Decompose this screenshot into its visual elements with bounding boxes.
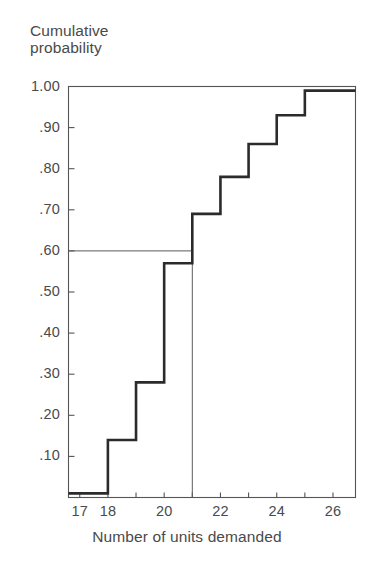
plot-area <box>0 0 374 584</box>
cumulative-probability-chart: Cumulative probability Number of units d… <box>0 0 374 584</box>
step-function-line <box>69 91 356 494</box>
plot-frame <box>69 87 356 498</box>
